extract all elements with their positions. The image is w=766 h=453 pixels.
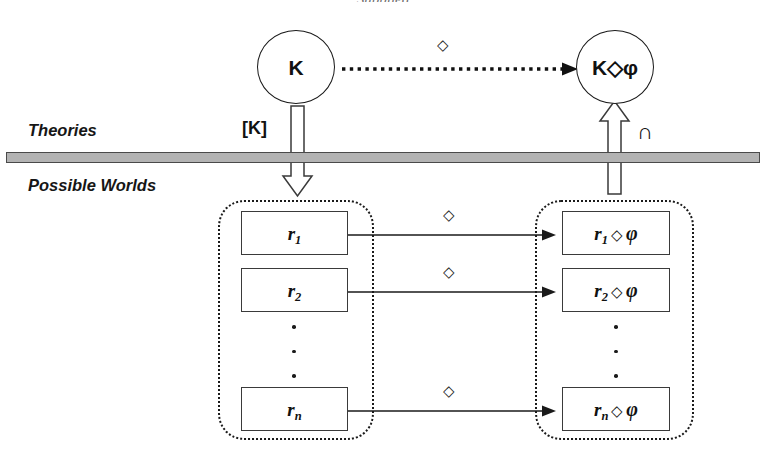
world-box-rn[interactable]: rn — [241, 387, 348, 431]
theory-node-target[interactable]: K◇φ — [576, 30, 654, 104]
world-box-r1[interactable]: r1 — [241, 211, 348, 255]
world-arrow-1-operator-label: ◇ — [443, 208, 455, 223]
world-box-r1-phi[interactable]: r1◇φ — [562, 211, 670, 255]
up-arrow-label: ∩ — [637, 121, 653, 143]
world-box-rn-phi[interactable]: rn◇φ — [562, 387, 670, 431]
theory-node-source-label: K — [288, 57, 303, 78]
theory-transition-arrow — [342, 63, 578, 76]
world-box-r1-label: r1 — [288, 224, 302, 243]
world-box-r1-phi-label: r1◇φ — [594, 223, 637, 243]
world-box-r2-phi-label: r2◇φ — [594, 280, 637, 300]
world-arrow-2 — [348, 287, 556, 298]
instantiation-down-arrow — [283, 106, 312, 196]
intersection-up-arrow — [600, 101, 629, 194]
world-arrow-1 — [348, 230, 556, 241]
world-box-r2-phi[interactable]: r2◇φ — [562, 268, 670, 312]
world-arrow-2-operator-label: ◇ — [443, 265, 455, 280]
layer-separator-bar — [6, 152, 760, 163]
top-caption-fragment: Supplied — [0, 0, 766, 2]
world-box-r2[interactable]: r2 — [241, 268, 348, 312]
region-label-theories: Theories — [28, 121, 97, 140]
world-box-rn-label: rn — [287, 400, 301, 419]
theory-arrow-operator-label: ◇ — [437, 38, 449, 53]
world-arrow-n — [348, 406, 556, 417]
region-label-possible-worlds: Possible Worlds — [28, 176, 156, 195]
down-arrow-label: [K] — [242, 118, 267, 139]
world-box-r2-label: r2 — [288, 281, 302, 300]
diagram-canvas: Supplied K K◇φ — [0, 0, 766, 453]
theory-node-target-label: K◇φ — [592, 57, 638, 78]
world-arrow-n-operator-label: ◇ — [443, 384, 455, 399]
world-box-rn-phi-label: rn◇φ — [594, 399, 638, 419]
theory-node-source[interactable]: K — [257, 30, 335, 104]
